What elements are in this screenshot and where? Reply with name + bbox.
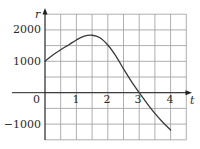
line-chart: r t 2000 1000 0 −1000 1 2 3 4 [0,0,200,149]
r-axis-arrow-icon [43,8,48,15]
y-tick-0: 0 [33,93,40,106]
y-tick-labels: 2000 1000 0 −1000 [4,23,41,131]
x-tick-3: 3 [135,93,142,106]
x-tick-labels: 1 2 3 4 [73,93,174,106]
grid [45,14,186,140]
r-axis-label: r [35,8,41,21]
t-axis-label: t [190,94,195,107]
y-tick-2000: 2000 [13,23,41,36]
x-tick-2: 2 [104,93,111,106]
y-tick-neg1000: −1000 [4,118,41,131]
x-tick-4: 4 [167,93,174,106]
x-tick-1: 1 [73,93,80,106]
y-tick-1000: 1000 [13,55,41,68]
